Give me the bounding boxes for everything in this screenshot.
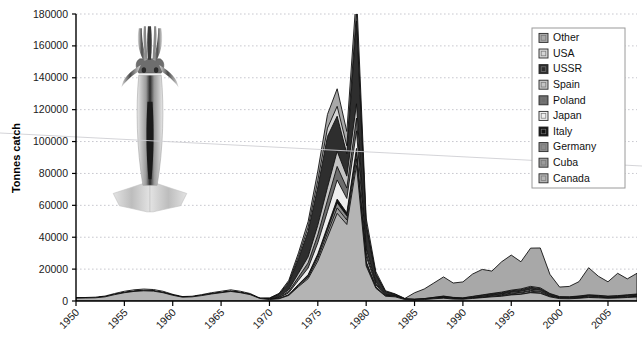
y-tick-label: 120000 — [33, 103, 68, 115]
legend-swatch-spain — [539, 80, 548, 89]
stacked-area-chart: 0200004000060000800001000001200001400001… — [0, 0, 642, 341]
legend-label-usa[interactable]: USA — [553, 47, 575, 59]
legend-swatch-poland — [539, 96, 548, 105]
legend-swatch-ussr — [539, 65, 548, 74]
y-tick-label: 20000 — [39, 263, 68, 275]
chart-legend[interactable]: OtherUSAUSSRSpainPolandJapanItalyGermany… — [532, 28, 625, 188]
y-axis-title: Tonnes catch — [10, 123, 22, 193]
legend-label-canada[interactable]: Canada — [553, 172, 590, 184]
legend-label-germany[interactable]: Germany — [553, 140, 597, 152]
legend-swatch-canada — [539, 174, 548, 183]
legend-label-poland[interactable]: Poland — [553, 94, 586, 106]
y-tick-label: 60000 — [39, 199, 68, 211]
legend-label-spain[interactable]: Spain — [553, 78, 580, 90]
legend-label-italy[interactable]: Italy — [553, 125, 573, 137]
legend-swatch-other — [539, 33, 548, 42]
legend-label-cuba[interactable]: Cuba — [553, 156, 578, 168]
y-tick-label: 80000 — [39, 167, 68, 179]
legend-label-other[interactable]: Other — [553, 31, 580, 43]
legend-swatch-italy — [539, 127, 548, 136]
legend-swatch-usa — [539, 49, 548, 58]
y-tick-label: 160000 — [33, 39, 68, 51]
y-tick-label: 180000 — [33, 8, 68, 20]
legend-label-japan[interactable]: Japan — [553, 109, 582, 121]
legend-swatch-germany — [539, 143, 548, 152]
chart-container: 0200004000060000800001000001200001400001… — [0, 0, 642, 341]
y-tick-label: 140000 — [33, 71, 68, 83]
legend-swatch-cuba — [539, 158, 548, 167]
y-tick-label: 40000 — [39, 231, 68, 243]
y-tick-label: 100000 — [33, 135, 68, 147]
legend-label-ussr[interactable]: USSR — [553, 62, 583, 74]
legend-swatch-japan — [539, 111, 548, 120]
y-tick-label: 0 — [62, 295, 68, 307]
